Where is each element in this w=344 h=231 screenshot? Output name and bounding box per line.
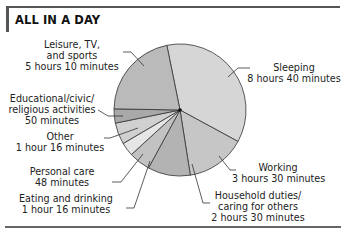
leader-eating [126, 161, 150, 208]
label-personal-care: Personal care 48 minutes [22, 166, 102, 188]
label-personal-value: 48 minutes [22, 177, 102, 188]
label-sleeping: Sleeping 8 hours 40 minutes [246, 62, 342, 84]
label-household-name-1: Household duties/ [210, 190, 306, 201]
label-working-name: Working [232, 162, 324, 173]
label-eating-value: 1 hour 16 minutes [12, 204, 120, 215]
label-leisure-name-1: Leisure, TV, [22, 39, 122, 50]
label-educational-name-2: religious activities [6, 104, 98, 115]
label-working: Working 3 hours 30 minutes [232, 162, 324, 184]
pie-center-dot [178, 108, 182, 112]
label-sleeping-value: 8 hours 40 minutes [246, 73, 342, 84]
label-other: Other 1 hour 16 minutes [12, 131, 108, 153]
label-leisure-value: 5 hours 10 minutes [22, 61, 122, 72]
label-other-name: Other [12, 131, 108, 142]
label-leisure: Leisure, TV, and sports 5 hours 10 minut… [22, 39, 122, 72]
label-educational: Educational/civic/ religious activities … [6, 93, 98, 126]
label-personal-name: Personal care [22, 166, 102, 177]
label-educational-value: 50 minutes [6, 115, 98, 126]
label-household-value: 2 hours 30 minutes [210, 212, 306, 223]
label-household-name-2: caring for others [210, 201, 306, 212]
label-household: Household duties/ caring for others 2 ho… [210, 190, 306, 223]
label-eating: Eating and drinking 1 hour 16 minutes [12, 193, 120, 215]
label-eating-name: Eating and drinking [12, 193, 120, 204]
label-sleeping-name: Sleeping [246, 62, 342, 73]
label-other-value: 1 hour 16 minutes [12, 142, 108, 153]
label-educational-name-1: Educational/civic/ [6, 93, 98, 104]
label-working-value: 3 hours 30 minutes [232, 173, 324, 184]
label-leisure-name-2: and sports [22, 50, 122, 61]
